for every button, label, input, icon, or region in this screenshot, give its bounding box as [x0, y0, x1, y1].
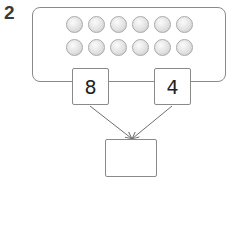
answer-box[interactable] — [105, 139, 157, 177]
part-right-box: 4 — [154, 68, 191, 105]
part-left-box: 8 — [72, 68, 109, 105]
arrow-right — [133, 106, 172, 138]
arrow-left — [90, 106, 131, 138]
